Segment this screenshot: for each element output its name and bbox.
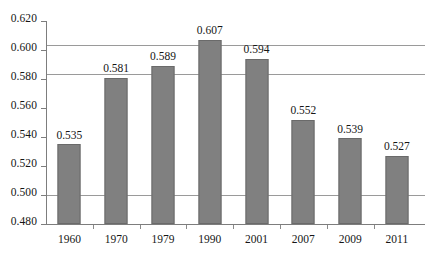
x-axis-label-2011: 2011 [374,233,421,245]
x-tick-mark [327,225,328,229]
x-axis-label-1960: 1960 [46,233,93,245]
bar-group-2011: 0.527 [374,21,421,224]
x-axis-label-1970: 1970 [93,233,140,245]
bar-value-label: 0.607 [197,25,223,37]
bar-value-label: 0.527 [384,141,410,153]
x-tick-mark [280,225,281,229]
x-axis-label-1990: 1990 [186,233,233,245]
plot-area: 0.5350.5810.5890.6070.5940.5520.5390.527 [46,21,425,224]
y-tick-label: 0.620 [11,13,37,25]
bar-group-1960: 0.535 [46,21,93,224]
x-tick-mark [374,225,375,229]
bar-group-2001: 0.594 [233,21,280,224]
bar-group-2007: 0.552 [280,21,327,224]
bar-group-2009: 0.539 [327,21,374,224]
bar-group-1990: 0.607 [186,21,233,224]
bar [339,138,362,224]
bar-value-label: 0.594 [244,44,270,56]
x-axis-label-2007: 2007 [280,233,327,245]
x-tick-mark [140,225,141,229]
y-tick-label: 0.560 [11,100,37,112]
bar-group-1979: 0.589 [140,21,187,224]
y-tick-label: 0.600 [11,42,37,54]
bar [385,156,408,224]
bar [58,144,81,224]
bar-value-label: 0.539 [337,124,363,136]
bar-value-label: 0.552 [290,105,316,117]
bar [151,66,174,224]
bar-group-1970: 0.581 [93,21,140,224]
x-axis-label-2009: 2009 [327,233,374,245]
y-tick-label: 0.480 [11,216,37,228]
bar-value-label: 0.589 [150,51,176,63]
x-axis-line [46,224,425,225]
x-axis-label-2001: 2001 [233,233,280,245]
y-tick-label: 0.540 [11,129,37,141]
y-tick-label: 0.520 [11,158,37,170]
bar [292,120,315,224]
x-tick-mark [233,225,234,229]
y-tick-label: 0.580 [11,71,37,83]
bar [198,40,221,224]
x-tick-mark [93,225,94,229]
bar-value-label: 0.535 [56,130,82,142]
x-axis-label-1979: 1979 [140,233,187,245]
bar-chart: 0.6200.6000.5800.5600.5400.5200.5000.480… [0,0,437,258]
bar [105,78,128,224]
x-tick-mark [186,225,187,229]
bar [245,59,268,224]
y-tick-label: 0.500 [11,187,37,199]
bar-value-label: 0.581 [103,63,129,75]
